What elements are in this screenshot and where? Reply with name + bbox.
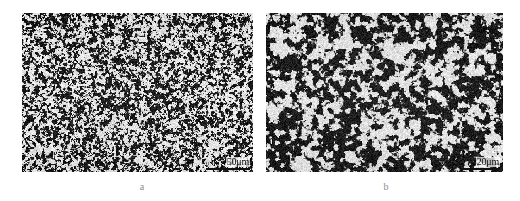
micrograph-image-a <box>22 13 253 172</box>
scale-bar-label-b: 20μm <box>476 157 500 167</box>
scale-bar-line-a <box>206 168 250 170</box>
scale-bar-label-a: 50μm <box>226 157 250 167</box>
micrograph-image-b <box>266 13 503 172</box>
micrograph-panel-a: 50μm <box>22 13 253 172</box>
scale-bar-line-b <box>460 168 500 170</box>
scale-bar-b: 20μm <box>460 157 500 170</box>
micrograph-panel-b: 20μm <box>266 13 503 172</box>
figure-root: 50μm 20μm a b <box>0 0 520 201</box>
panel-caption-b: b <box>376 181 396 192</box>
scale-bar-a: 50μm <box>206 157 250 170</box>
panel-caption-a: a <box>132 181 152 192</box>
